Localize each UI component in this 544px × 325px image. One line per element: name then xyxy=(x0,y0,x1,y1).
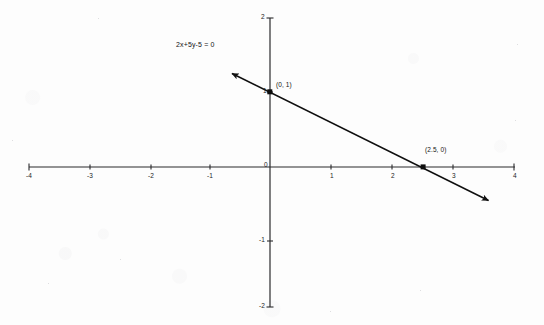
marker-x-intercept xyxy=(421,164,426,169)
y-tick-label-1: 1 xyxy=(263,88,267,95)
annotation-equation: 2x+5y-5 = 0 xyxy=(176,41,215,48)
x-tick-label--3: -3 xyxy=(87,173,93,180)
x-tick-label-1: 1 xyxy=(330,173,334,180)
x-tick-label-2: 2 xyxy=(391,173,395,180)
x-tick-label--2: -2 xyxy=(148,173,154,180)
annotation-y-intercept: (0, 1) xyxy=(276,82,292,89)
x-tick-label-4: 4 xyxy=(513,173,517,180)
y-tick-label--1: -1 xyxy=(259,237,265,244)
annotation-x-intercept: (2.5, 0) xyxy=(425,147,446,154)
x-tick-label-3: 3 xyxy=(452,173,456,180)
figure-canvas: -4 -3 -2 -1 0 1 2 3 4 2 1 -1 -2 (0, 1) (… xyxy=(0,0,544,325)
x-tick-label--4: -4 xyxy=(26,173,32,180)
coordinate-plane xyxy=(0,0,544,325)
x-tick-label-0: 0 xyxy=(264,162,268,169)
y-tick-label-2: 2 xyxy=(261,14,265,21)
x-tick-label--1: -1 xyxy=(207,173,213,180)
x-axis xyxy=(29,164,515,171)
marker-y-intercept xyxy=(267,89,272,94)
y-tick-label--2: -2 xyxy=(259,303,265,310)
